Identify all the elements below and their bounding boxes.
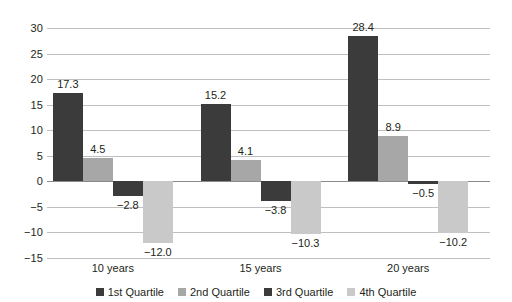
chart-legend: 1st Quartile2nd Quartile3rd Quartile4th … [0,284,512,300]
legend-swatch-icon [347,288,355,296]
gridline [47,79,490,80]
bar [113,181,143,195]
y-axis-tick-label: 15 [3,100,43,111]
bar [378,136,408,181]
legend-item[interactable]: 3rd Quartile [264,287,333,298]
bar-value-label: −10.2 [425,237,481,248]
legend-item-label: 2nd Quartile [190,287,250,298]
bar-value-label: −10.3 [278,238,334,249]
x-axis-tick-label: 15 years [181,262,341,274]
gridline [47,232,490,233]
gridline [47,105,490,106]
y-axis-tick-label: 30 [3,23,43,34]
gridline [47,28,490,29]
legend-swatch-icon [264,288,272,296]
legend-item-label: 1st Quartile [108,287,164,298]
bar [201,104,231,182]
bar-value-label: 4.1 [218,146,274,157]
bar [143,181,173,242]
gridline [47,130,490,131]
legend-swatch-icon [178,288,186,296]
y-axis-tick-label: 25 [3,49,43,60]
legend-item[interactable]: 4th Quartile [347,287,416,298]
legend-item-label: 3rd Quartile [276,287,333,298]
bar-value-label: 28.4 [335,22,391,33]
plot-area: 17.34.5−2.8−12.015.24.1−3.8−10.328.48.9−… [47,28,490,258]
gridline [47,54,490,55]
y-axis-tick-label: 5 [3,151,43,162]
x-axis-tick-label: 10 years [33,262,193,274]
bar-value-label: 4.5 [70,144,126,155]
bar-chart: 302520151050−5−10−15 17.34.5−2.8−12.015.… [0,0,512,302]
legend-item-label: 4th Quartile [359,287,416,298]
bar-value-label: 15.2 [188,90,244,101]
y-axis-tick-label: 10 [3,125,43,136]
y-axis: 302520151050−5−10−15 [0,28,43,258]
bar [408,181,438,184]
x-axis-tick-label: 20 years [328,262,488,274]
y-axis-tick-label: 0 [3,176,43,187]
bar [291,181,321,234]
bar-value-label: −12.0 [130,247,186,258]
bar [438,181,468,233]
x-axis: 10 years15 years20 years [47,262,490,278]
bar [348,36,378,181]
bar [53,93,83,181]
bar [231,160,261,181]
y-axis-tick-label: −5 [3,202,43,213]
legend-item[interactable]: 1st Quartile [96,287,164,298]
legend-item[interactable]: 2nd Quartile [178,287,250,298]
legend-swatch-icon [96,288,104,296]
bar-value-label: 8.9 [365,122,421,133]
bar [261,181,291,200]
y-axis-tick-label: 20 [3,74,43,85]
gridline [47,258,490,259]
bar [83,158,113,181]
y-axis-tick-label: −10 [3,227,43,238]
bar-value-label: 17.3 [40,79,96,90]
